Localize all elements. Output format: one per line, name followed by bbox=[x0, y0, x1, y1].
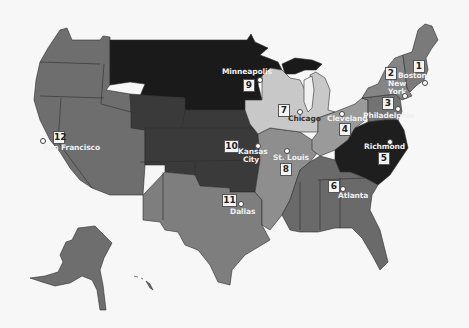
city-label-richmond: Richmond bbox=[364, 143, 405, 151]
district-1-region bbox=[403, 24, 438, 92]
city-label-boston: Boston bbox=[398, 72, 427, 80]
district-number-badge: 11 bbox=[222, 194, 237, 207]
city-label-chicago: Chicago bbox=[288, 115, 321, 123]
city-marker-new-york bbox=[402, 93, 408, 99]
district-number-badge: 4 bbox=[339, 123, 351, 136]
city-marker-boston bbox=[422, 80, 428, 86]
city-label-minneapolis: Minneapolis bbox=[222, 68, 272, 76]
federal-reserve-district-map: 12 San Francisco Minneapolis 9 7 Chicago… bbox=[0, 0, 469, 328]
us-map-svg bbox=[0, 0, 469, 328]
district-number-badge: 3 bbox=[382, 97, 394, 110]
city-label-st-louis: St. Louis bbox=[273, 154, 309, 162]
city-label-kansas-city-line2: City bbox=[243, 156, 259, 164]
district-number-badge: 9 bbox=[243, 79, 255, 92]
city-label-philadelphia: Philadelphia bbox=[363, 112, 414, 120]
city-label-dallas: Dallas bbox=[230, 208, 255, 216]
city-label-san-francisco: San Francisco bbox=[43, 144, 100, 152]
district-number-badge: 5 bbox=[378, 152, 390, 165]
city-label-atlanta: Atlanta bbox=[338, 192, 368, 200]
district-number-badge: 10 bbox=[224, 140, 239, 153]
city-label-cleveland: Cleveland bbox=[327, 115, 368, 123]
district-number-badge: 8 bbox=[280, 163, 292, 176]
city-marker-minneapolis bbox=[257, 77, 263, 83]
